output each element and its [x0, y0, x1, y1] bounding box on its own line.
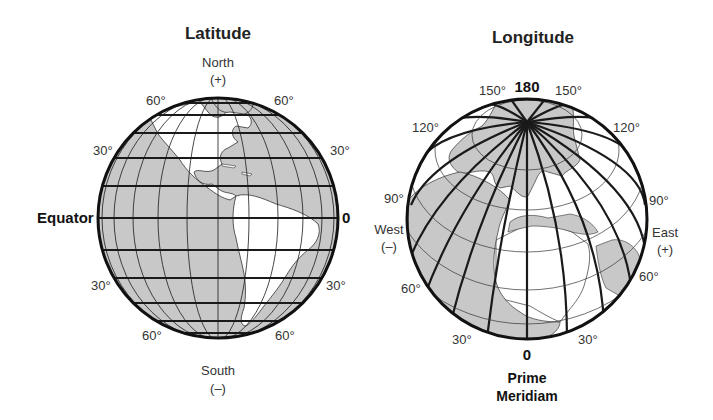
west-label: West — [374, 223, 403, 236]
lat-n60-right: 60° — [274, 94, 294, 107]
lat-s30-left: 30° — [91, 279, 111, 292]
lat-n30-left: 30° — [93, 144, 113, 157]
prime-meridian-label-2: Meridiam — [496, 389, 557, 403]
lon-e60: 60° — [639, 270, 659, 283]
lon-180: 180 — [514, 79, 539, 94]
lat-s60-right: 60° — [275, 329, 295, 342]
globes-diagram — [0, 0, 713, 420]
lat-n60-left: 60° — [146, 94, 166, 107]
lon-e150: 150° — [555, 84, 582, 97]
east-sign: (+) — [657, 243, 673, 256]
north-label: North — [202, 56, 234, 69]
lon-w150: 150° — [479, 84, 506, 97]
equator-value: 0 — [342, 210, 350, 225]
latitude-globe — [90, 96, 346, 340]
lon-w120: 120° — [412, 121, 439, 134]
south-label: South — [201, 364, 235, 377]
equator-label: Equator — [37, 210, 94, 225]
prime-meridian-label-1: Prime — [508, 371, 547, 385]
prime-meridian-value: 0 — [523, 347, 531, 362]
lon-w90: 90° — [384, 192, 404, 205]
lon-e90: 90° — [649, 194, 669, 207]
lat-s60-left: 60° — [142, 329, 162, 342]
latitude-title: Latitude — [185, 24, 251, 44]
west-sign: (–) — [381, 240, 397, 253]
lon-w60: 60° — [401, 282, 421, 295]
south-sign: (–) — [210, 382, 226, 395]
east-label: East — [652, 226, 678, 239]
lat-n30-right: 30° — [330, 144, 350, 157]
lon-e30: 30° — [578, 333, 598, 346]
lon-e120: 120° — [613, 121, 640, 134]
longitude-title: Longitude — [492, 28, 574, 48]
lon-w30: 30° — [452, 333, 472, 346]
longitude-globe — [362, 50, 692, 350]
north-sign: (+) — [210, 73, 226, 86]
lat-s30-right: 30° — [326, 279, 346, 292]
